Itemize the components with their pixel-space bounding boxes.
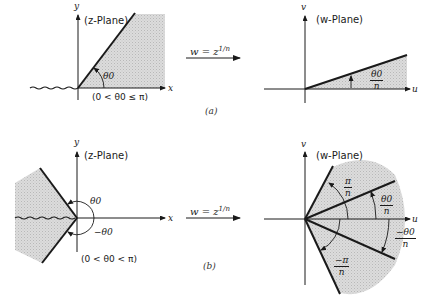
branch-cut-wavy-line: [30, 87, 78, 89]
shaded-exterior-region: [15, 168, 77, 263]
y-axis-label: y: [74, 2, 79, 11]
fraction-numerator: π: [344, 177, 352, 188]
z-plane-title: (z-Plane): [84, 16, 128, 26]
u-axis-label: u: [412, 85, 418, 94]
conformal-map-diagram: [0, 0, 430, 300]
v-axis-label: v: [301, 3, 306, 12]
fraction-denominator: n: [339, 267, 345, 277]
x-axis-label: x: [168, 84, 173, 93]
y-axis-label: y: [74, 138, 79, 147]
mapping-exponent: 1/n: [219, 45, 230, 53]
panel-b-z-plane: [15, 152, 165, 263]
u-axis-label: u: [412, 215, 418, 224]
angle-label-neg-theta0: −θ0: [94, 228, 113, 237]
shaded-sector-region: [305, 160, 405, 294]
v-axis-label: v: [301, 140, 306, 149]
mapping-label-a: w = z1/n: [190, 46, 230, 57]
angle-label-theta0-over-n: θ0 n: [380, 195, 393, 216]
fraction-denominator: n: [384, 206, 390, 216]
w-plane-title: (w-Plane): [316, 151, 363, 161]
mapping-exponent: 1/n: [219, 205, 230, 213]
mapping-lhs: w = z: [190, 46, 219, 57]
condition-label: (0 < θ0 ≤ π): [92, 93, 148, 102]
angle-label-theta0-over-n: θ0 n: [370, 70, 383, 91]
z-plane-title: (z-Plane): [84, 151, 128, 161]
angle-label-theta0: θ0: [90, 197, 101, 206]
fraction-denominator: n: [402, 239, 408, 249]
caption-a: (a): [205, 106, 217, 116]
fraction-numerator: θ0: [370, 70, 383, 81]
fraction-numerator: −π: [334, 256, 349, 267]
x-axis-label: x: [168, 214, 173, 223]
panel-a-z-plane: [30, 13, 165, 100]
fraction-numerator: θ0: [380, 195, 393, 206]
w-plane-title: (w-Plane): [316, 15, 363, 25]
caption-b: (b): [203, 261, 216, 271]
fraction-denominator: n: [345, 188, 351, 198]
fraction-denominator: n: [374, 81, 380, 91]
angle-label-pi-over-n: π n: [344, 177, 352, 198]
angle-label-neg-pi-over-n: −π n: [334, 256, 349, 277]
panel-a-w-plane: [264, 16, 410, 103]
condition-label: (0 < θ0 < π): [81, 255, 137, 264]
mapping-lhs: w = z: [190, 206, 219, 217]
angle-label-neg-theta0-over-n: −θ0 n: [395, 228, 416, 249]
fraction-numerator: −θ0: [395, 228, 416, 239]
mapping-label-b: w = z1/n: [190, 206, 230, 217]
angle-label-theta0: θ0: [103, 72, 114, 81]
